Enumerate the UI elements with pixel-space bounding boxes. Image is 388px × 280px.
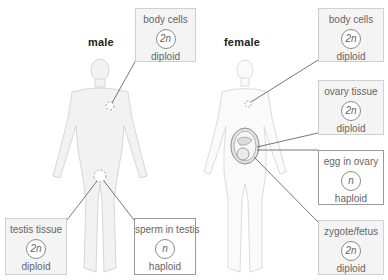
male-body-illustration (53, 59, 147, 272)
womb-fetus-illustration (231, 128, 259, 164)
ploidy-circle: 2n (156, 29, 176, 49)
ploidy-circle: 2n (341, 29, 361, 49)
box-title: ovary tissue (319, 86, 383, 98)
ploidy-circle: n (341, 171, 361, 191)
egg-in-ovary-box: egg in ovary n haploid (318, 150, 384, 205)
box-title: sperm in testis (135, 224, 195, 236)
female-body-cells-box: body cells 2n diploid (318, 8, 384, 62)
ploidy-circle: n (155, 239, 175, 259)
female-label: female (224, 36, 260, 48)
ploidy-state: haploid (135, 261, 195, 273)
ploidy-circle: 2n (341, 101, 361, 121)
sperm-in-testis-box: sperm in testis n haploid (134, 218, 196, 275)
ploidy-circle: 2n (26, 239, 46, 259)
female-body-illustration (204, 60, 286, 272)
box-title: zygote/fetus (319, 226, 383, 238)
box-title: testis tissue (6, 224, 66, 236)
box-title: body cells (136, 14, 195, 26)
female-chest-marker (245, 101, 251, 107)
ploidy-state: diploid (6, 261, 66, 273)
ploidy-state: haploid (319, 193, 383, 205)
ploidy-circle: 2n (341, 241, 361, 261)
ploidy-state: diploid (136, 51, 195, 63)
ovary-tissue-box: ovary tissue 2n diploid (318, 80, 384, 135)
male-chest-marker (106, 102, 114, 110)
male-groin-marker (94, 170, 106, 182)
ploidy-state: diploid (319, 263, 383, 275)
box-title: egg in ovary (319, 156, 383, 168)
box-title: body cells (319, 14, 383, 26)
ploidy-state: diploid (319, 123, 383, 135)
male-body-cells-box: body cells 2n diploid (135, 8, 196, 62)
ploidy-state: diploid (319, 51, 383, 63)
testis-tissue-box: testis tissue 2n diploid (5, 218, 67, 275)
zygote-fetus-box: zygote/fetus 2n diploid (318, 220, 384, 275)
male-label: male (88, 36, 114, 48)
